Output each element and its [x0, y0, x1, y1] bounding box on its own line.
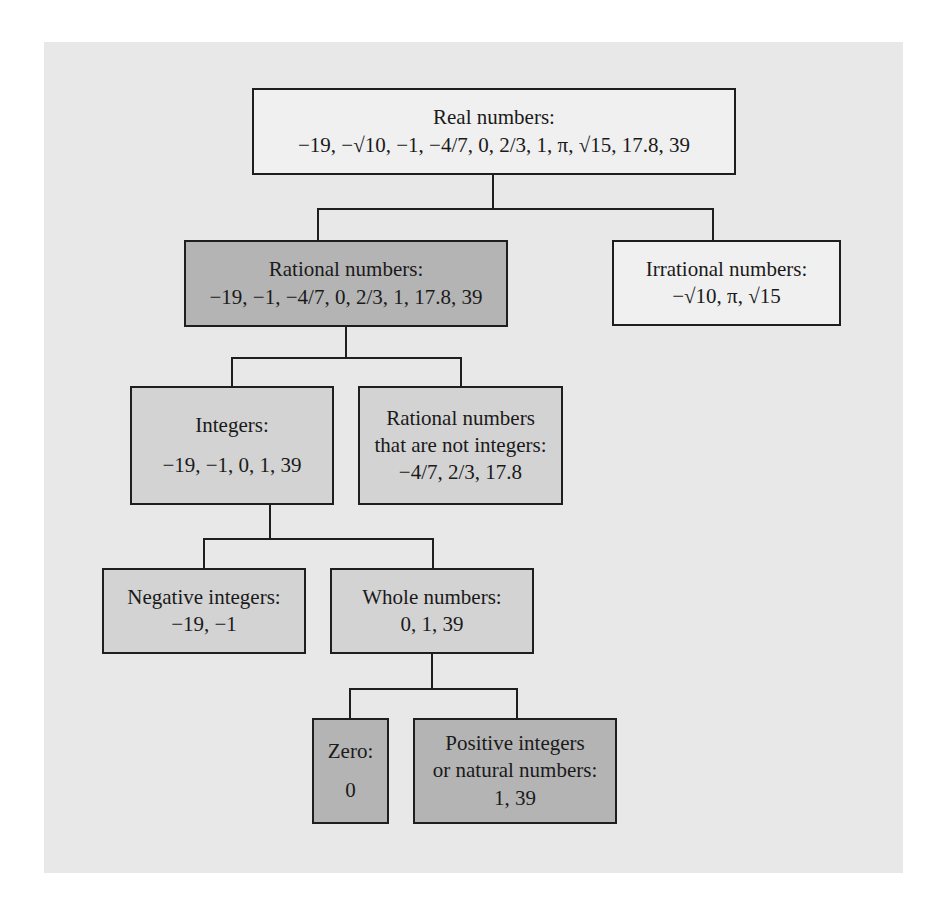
node-title: Zero:	[328, 738, 373, 765]
node-values: −19, −1, −4/7, 0, 2/3, 1, 17.8, 39	[210, 284, 483, 311]
node-whole-numbers: Whole numbers: 0, 1, 39	[330, 568, 534, 654]
connector	[317, 208, 713, 210]
node-values: −19, −1, 0, 1, 39	[162, 452, 301, 479]
connector	[492, 173, 494, 209]
node-title: Integers:	[195, 412, 268, 439]
node-negative-integers: Negative integers: −19, −1	[102, 568, 306, 654]
node-title: or natural numbers:	[433, 757, 597, 784]
node-title: that are not integers:	[374, 432, 546, 459]
node-title: Irrational numbers:	[646, 256, 808, 283]
node-title: Real numbers:	[433, 104, 555, 131]
node-title: Positive integers	[445, 730, 584, 757]
connector	[345, 325, 347, 358]
connector	[231, 357, 233, 388]
node-title: Whole numbers:	[362, 584, 501, 611]
connector	[269, 503, 271, 539]
connector	[349, 688, 351, 719]
node-rational-not-integers: Rational numbers that are not integers: …	[358, 386, 563, 505]
node-values: 0, 1, 39	[401, 611, 464, 638]
connector	[203, 538, 434, 540]
connector	[460, 357, 462, 388]
node-values: 1, 39	[494, 785, 536, 812]
node-irrational-numbers: Irrational numbers: −√10, π, √15	[612, 240, 841, 326]
node-values: −19, −√10, −1, −4/7, 0, 2/3, 1, π, √15, …	[298, 132, 690, 159]
node-real-numbers: Real numbers: −19, −√10, −1, −4/7, 0, 2/…	[252, 88, 736, 175]
node-rational-numbers: Rational numbers: −19, −1, −4/7, 0, 2/3,…	[184, 240, 508, 327]
node-positive-integers: Positive integers or natural numbers: 1,…	[413, 718, 617, 824]
connector	[231, 357, 462, 359]
node-title: Rational numbers:	[269, 256, 424, 283]
node-zero: Zero: 0	[312, 718, 389, 824]
node-title: Negative integers:	[127, 584, 280, 611]
node-integers: Integers: −19, −1, 0, 1, 39	[130, 386, 334, 505]
connector	[203, 538, 205, 569]
node-title: Rational numbers	[386, 405, 535, 432]
node-values: −√10, π, √15	[672, 283, 781, 310]
connector	[317, 208, 319, 241]
node-values: 0	[345, 777, 356, 804]
node-values: −4/7, 2/3, 17.8	[399, 459, 522, 486]
connector	[349, 688, 518, 690]
cutoff-text-line	[60, 0, 860, 6]
connector	[712, 208, 714, 241]
connector	[516, 688, 518, 719]
node-values: −19, −1	[171, 611, 237, 638]
connector	[431, 652, 433, 689]
connector	[432, 538, 434, 569]
